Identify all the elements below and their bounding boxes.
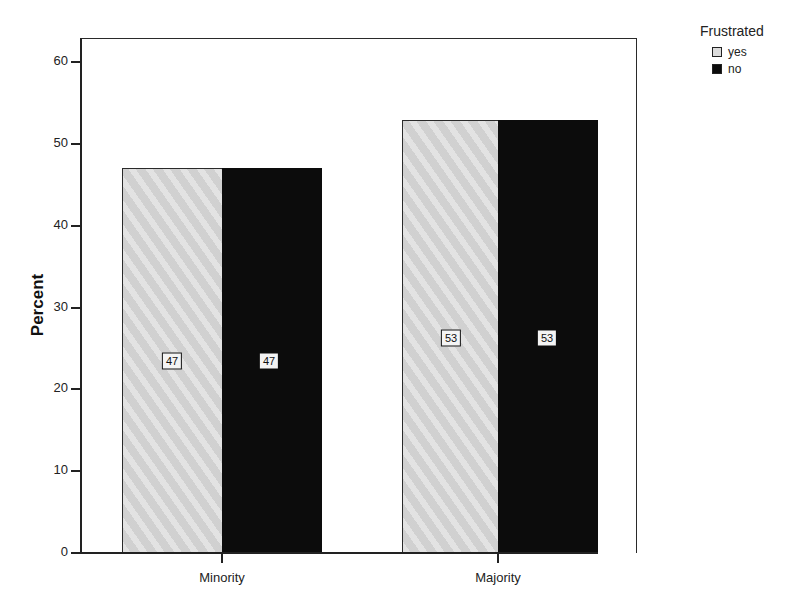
data-label-minority-yes: 47	[162, 353, 182, 370]
legend-item-no: no	[712, 62, 741, 76]
legend-title: Frustrated	[700, 23, 764, 39]
data-label-majority-no: 53	[538, 331, 556, 346]
y-tick-label-0: 0	[28, 545, 68, 559]
y-tick-label-40: 40	[28, 218, 68, 232]
x-tick-minority	[221, 553, 223, 563]
x-tick-label-majority: Majority	[438, 570, 558, 585]
y-tick-30	[71, 307, 81, 309]
legend-swatch-no-icon	[712, 64, 722, 74]
y-tick-label-20: 20	[28, 381, 68, 395]
x-axis-line	[80, 552, 598, 554]
data-label-minority-no: 47	[260, 354, 278, 369]
y-tick-40	[71, 225, 81, 227]
legend-swatch-yes-icon	[712, 47, 722, 57]
y-tick-label-50: 50	[28, 136, 68, 150]
y-tick-10	[71, 470, 81, 472]
legend-label-no: no	[728, 62, 741, 76]
x-tick-majority	[497, 553, 499, 563]
y-tick-60	[71, 61, 81, 63]
data-label-majority-yes: 53	[441, 330, 461, 347]
y-tick-0	[71, 552, 81, 554]
legend-item-yes: yes	[712, 45, 747, 59]
y-tick-20	[71, 388, 81, 390]
y-axis-title: Percent	[28, 274, 48, 336]
y-tick-label-60: 60	[28, 54, 68, 68]
x-tick-label-minority: Minority	[162, 570, 282, 585]
y-axis-line	[80, 38, 82, 554]
y-tick-50	[71, 143, 81, 145]
legend-label-yes: yes	[728, 45, 747, 59]
y-tick-label-10: 10	[28, 463, 68, 477]
